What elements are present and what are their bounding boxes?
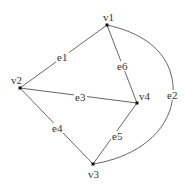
vertex-label-v2: v2 — [11, 74, 22, 86]
vertex-label-v1: v1 — [103, 11, 114, 23]
edge-label-e1: e1 — [57, 51, 67, 63]
vertex-v2 — [19, 87, 22, 90]
edge-label-e3: e3 — [75, 91, 86, 103]
edge-label-e2: e2 — [167, 89, 177, 101]
edge-e2 — [93, 25, 173, 164]
edge-label-e4: e4 — [52, 122, 63, 134]
vertex-v1 — [106, 24, 109, 27]
vertex-label-v3: v3 — [88, 168, 100, 180]
graph-diagram: e1 e2 e3 e4 e5 e6 v1 v2 v3 v4 — [0, 0, 185, 187]
edge-label-e6: e6 — [117, 60, 128, 72]
vertex-v3 — [92, 163, 95, 166]
vertex-label-v4: v4 — [139, 90, 151, 102]
edge-label-e5: e5 — [112, 130, 123, 142]
